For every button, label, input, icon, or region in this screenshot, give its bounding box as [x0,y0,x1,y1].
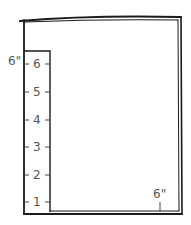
ruler [24,51,50,212]
ruler-tick-label: 3 [33,140,41,154]
ruler-tick-label: 4 [33,113,41,127]
ruler-tick-label: 6 [33,57,41,71]
ruler-tick-label: 2 [33,168,41,182]
diagram-canvas: 6 5 4 3 2 1 6" 6" [0,0,191,225]
width-label: 6" [153,187,166,201]
ruler-tick-label: 5 [33,85,41,99]
ruler-tick-label: 1 [33,195,41,209]
outer-box [20,17,182,215]
height-label: 6" [8,54,21,68]
